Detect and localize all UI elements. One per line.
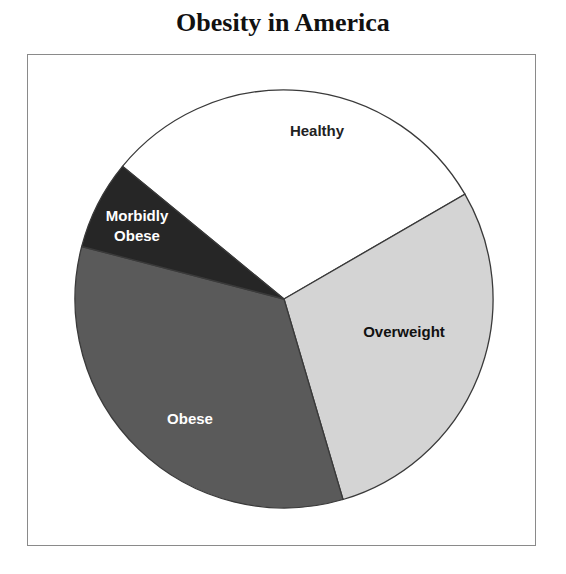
pie-chart: HealthyOverweightObeseMorbidlyObese bbox=[0, 0, 566, 574]
slice-label-obese: Obese bbox=[167, 410, 213, 427]
slice-label-healthy: Healthy bbox=[290, 122, 345, 139]
pie-slices bbox=[75, 90, 493, 508]
slice-label-overweight: Overweight bbox=[363, 323, 445, 340]
